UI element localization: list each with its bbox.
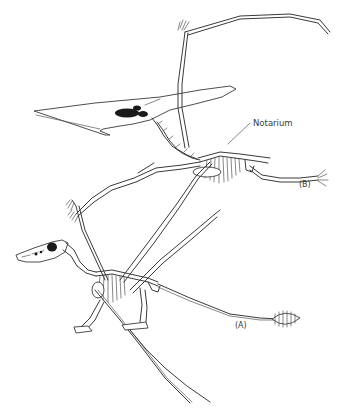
wing-lower-b [68, 162, 200, 222]
notarium-pointer-line [228, 123, 250, 144]
hindlimb-b [250, 166, 328, 186]
wing-lower-a [66, 200, 108, 280]
specimen-a-label: (A) [235, 321, 247, 330]
notarium-label: Notarium [253, 118, 293, 128]
hindlimbs-a [74, 288, 148, 333]
tail-vane [272, 313, 300, 324]
specimen-b-label: (B) [299, 180, 311, 189]
pterosaur-skeleton-figure [0, 0, 346, 414]
skeleton-a [16, 162, 300, 403]
skull-b [34, 86, 236, 135]
wing-upper-a [120, 162, 220, 293]
neck-a [63, 243, 96, 276]
tail-a [158, 284, 300, 327]
neck-b [152, 118, 200, 160]
wing-tip-a [130, 330, 210, 402]
skull-a [16, 240, 68, 262]
